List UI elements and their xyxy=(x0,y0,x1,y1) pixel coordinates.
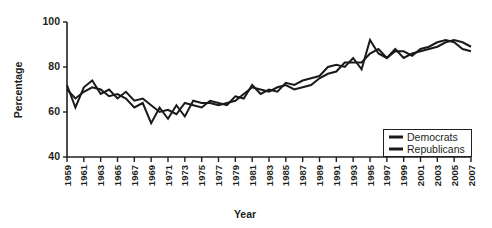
x-axis-title: Year xyxy=(234,208,256,220)
x-tick-label: 2007 xyxy=(466,165,477,186)
x-tick-label: 1991 xyxy=(331,164,342,186)
x-axis-tick-labels: 1959196119631965196719691971197319751977… xyxy=(62,164,477,186)
y-axis-title: Percentage xyxy=(12,62,24,119)
x-tick-label: 1973 xyxy=(179,165,190,186)
chart-canvas: 406080100 195919611963196519671969197119… xyxy=(0,0,492,228)
x-tick-label: 1987 xyxy=(297,165,308,186)
y-tick-label: 80 xyxy=(48,60,60,72)
x-tick-label: 1969 xyxy=(146,165,157,186)
x-tick-label: 1959 xyxy=(62,165,73,186)
legend-label-democrats: Democrats xyxy=(407,131,458,143)
x-tick-label: 1967 xyxy=(129,165,140,186)
x-tick-label: 1981 xyxy=(247,164,258,186)
x-tick-label: 1971 xyxy=(163,164,174,186)
x-tick-label: 1995 xyxy=(365,164,376,186)
line-chart: 406080100 195919611963196519671969197119… xyxy=(0,0,492,228)
x-tick-label: 1977 xyxy=(213,165,224,186)
y-tick-label: 100 xyxy=(42,15,60,27)
y-tick-label: 60 xyxy=(48,105,60,117)
x-tick-label: 1961 xyxy=(78,164,89,186)
x-tick-label: 1993 xyxy=(348,165,359,186)
series-line-republicans xyxy=(67,40,471,123)
x-tick-label: 1979 xyxy=(230,165,241,186)
data-series-group xyxy=(67,40,471,123)
x-tick-label: 1983 xyxy=(264,165,275,186)
x-tick-label: 1999 xyxy=(398,165,409,186)
legend: Democrats Republicans xyxy=(384,130,472,157)
x-tick-label: 1985 xyxy=(280,164,291,186)
x-tick-label: 1965 xyxy=(112,164,123,186)
x-tick-label: 1963 xyxy=(95,165,106,186)
y-tick-label: 40 xyxy=(48,150,60,162)
x-tick-label: 2005 xyxy=(449,164,460,186)
x-tick-label: 1997 xyxy=(381,165,392,186)
legend-label-republicans: Republicans xyxy=(407,143,465,155)
series-line-democrats xyxy=(67,40,471,114)
x-tick-label: 2003 xyxy=(432,165,443,186)
x-tick-label: 1989 xyxy=(314,165,325,186)
x-tick-label: 2001 xyxy=(415,164,426,186)
y-axis-tick-labels: 406080100 xyxy=(42,15,60,162)
x-tick-label: 1975 xyxy=(196,164,207,186)
